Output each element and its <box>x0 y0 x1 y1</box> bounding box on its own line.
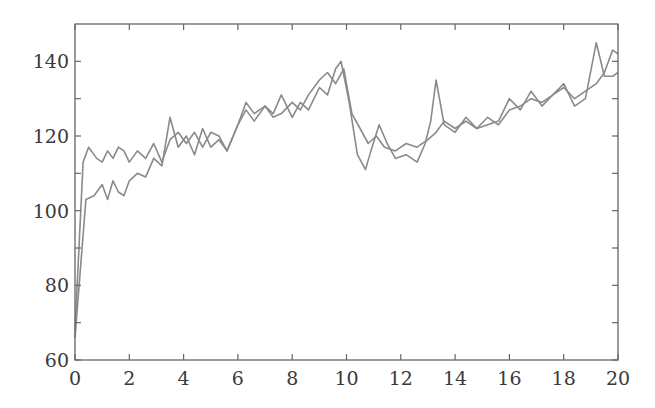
axis-ticks <box>75 24 618 360</box>
x-axis-tick-labels: 02468101214161820 <box>69 367 630 389</box>
x-tick-label: 12 <box>389 367 413 389</box>
x-tick-label: 20 <box>606 367 630 389</box>
plot-lines <box>75 43 618 338</box>
x-tick-label: 8 <box>286 367 298 389</box>
x-tick-label: 10 <box>334 367 358 389</box>
x-tick-label: 14 <box>443 367 467 389</box>
x-tick-label: 4 <box>178 367 190 389</box>
x-tick-label: 16 <box>497 367 521 389</box>
x-tick-label: 6 <box>232 367 244 389</box>
y-tick-label: 120 <box>33 125 69 147</box>
y-tick-label: 60 <box>45 349 69 371</box>
y-axis-tick-labels: 6080100120140 <box>33 50 69 371</box>
line-series-2 <box>75 43 618 338</box>
plot-frame <box>75 24 618 360</box>
line-chart: 02468101214161820 6080100120140 <box>0 0 655 408</box>
y-tick-label: 80 <box>45 274 69 296</box>
y-tick-label: 100 <box>33 200 69 222</box>
x-tick-label: 0 <box>69 367 81 389</box>
y-tick-label: 140 <box>33 50 69 72</box>
x-tick-label: 18 <box>552 367 576 389</box>
x-tick-label: 2 <box>123 367 135 389</box>
